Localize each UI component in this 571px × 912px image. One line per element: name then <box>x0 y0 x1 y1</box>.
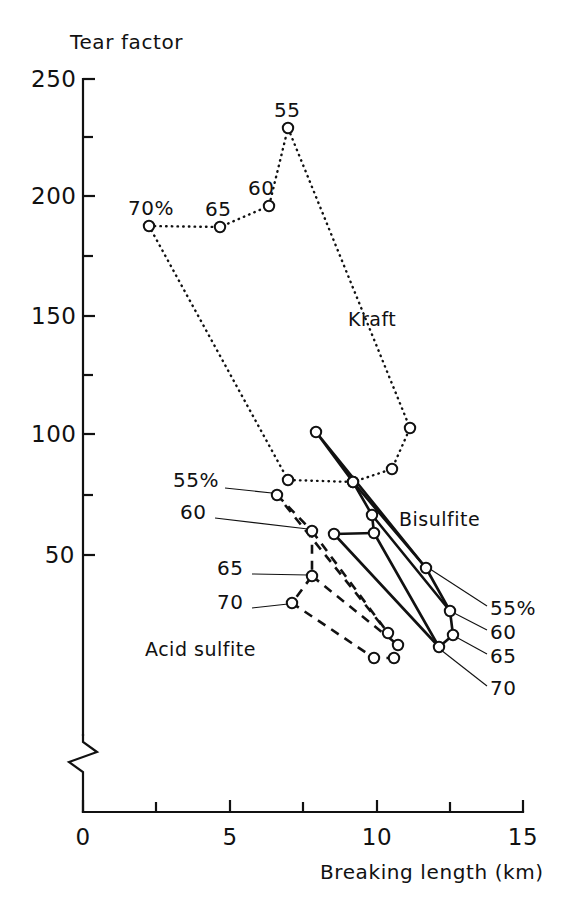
leader-bis-55 <box>430 569 487 606</box>
kraft-point-65 <box>215 222 225 232</box>
x-axis <box>83 800 523 812</box>
acid-point-55 <box>272 490 282 500</box>
x-tick-label-15: 15 <box>503 824 543 850</box>
acid-point-60-low <box>393 640 403 650</box>
y-tick-label-250: 250 <box>31 66 75 92</box>
leader-bis-60 <box>454 613 487 630</box>
bisulfite-point-a <box>311 427 321 437</box>
bisulfite-point-d <box>369 528 379 538</box>
y-tick-label-200: 200 <box>31 183 75 209</box>
kraft-point-70 <box>144 221 154 231</box>
bisulfite-point-c <box>367 510 377 520</box>
acid-point-55-low <box>383 628 393 638</box>
series-label-bisulfite: Bisulfite <box>399 508 480 530</box>
bisulfite-point-60 <box>445 606 455 616</box>
leader-bis-65 <box>456 637 487 654</box>
kraft-label-70: 70% <box>128 196 174 220</box>
y-tick-label-100: 100 <box>31 421 75 447</box>
series-bisulfite <box>311 427 458 652</box>
chart-figure: Tear factor Breaking length (km) 250 200… <box>0 0 571 912</box>
acid-point-70-low <box>369 653 379 663</box>
y-tick-label-50: 50 <box>31 542 75 568</box>
kraft-point-60-low <box>387 464 397 474</box>
kraft-point-55-low <box>405 423 415 433</box>
kraft-point-60 <box>264 201 274 211</box>
bisulfite-label-70: 70 <box>490 676 516 700</box>
series-label-kraft: Kraft <box>348 308 396 330</box>
series-label-acid-sulfite: Acid sulfite <box>145 638 256 660</box>
leader-acid-60 <box>215 518 308 529</box>
kraft-point-70-low <box>283 475 293 485</box>
leader-acid-70 <box>252 604 288 608</box>
bisulfite-point-55 <box>421 563 431 573</box>
y-tick-label-150: 150 <box>31 303 75 329</box>
acid-label-65: 65 <box>217 556 243 580</box>
y-axis-title: Tear factor <box>70 30 183 54</box>
x-tick-label-10: 10 <box>357 824 397 850</box>
leader-bis-70 <box>441 650 487 686</box>
bisulfite-label-60: 60 <box>490 620 516 644</box>
acid-point-60 <box>307 526 317 536</box>
kraft-label-55: 55 <box>274 98 300 122</box>
kraft-point-55 <box>283 123 293 133</box>
kraft-label-65: 65 <box>205 197 231 221</box>
bisulfite-point-e <box>329 529 339 539</box>
chart-canvas <box>0 0 571 912</box>
leader-acid-65 <box>252 574 308 575</box>
kraft-label-60: 60 <box>248 176 274 200</box>
series-kraft <box>144 123 415 487</box>
leader-acid-55 <box>225 488 272 493</box>
bisulfite-label-55: 55% <box>490 596 536 620</box>
acid-point-65-low <box>389 653 399 663</box>
x-tick-label-5: 5 <box>210 824 250 850</box>
acid-point-70 <box>287 598 297 608</box>
bisulfite-point-65 <box>448 630 458 640</box>
bisulfite-label-65: 65 <box>490 644 516 668</box>
acid-label-60: 60 <box>180 500 206 524</box>
x-tick-label-0: 0 <box>63 824 103 850</box>
acid-label-55: 55% <box>173 468 219 492</box>
bisulfite-point-b <box>348 477 358 487</box>
x-axis-title: Breaking length (km) <box>320 860 544 884</box>
acid-point-65 <box>307 571 317 581</box>
acid-label-70: 70 <box>217 590 243 614</box>
